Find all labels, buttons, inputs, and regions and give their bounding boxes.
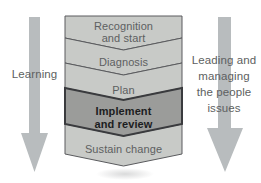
leading-managing-arrow-label: Leading and managing the people issues bbox=[187, 52, 261, 116]
chevron-tip-shadow bbox=[96, 168, 154, 180]
leading-label-line: Leading and bbox=[187, 52, 261, 68]
change-process-diagram: Recognition and start Diagnosis Plan Imp… bbox=[0, 0, 261, 183]
step-label-line: and start bbox=[65, 32, 182, 44]
step-label-implement-and-review: Implement and review bbox=[65, 105, 182, 131]
step-label-line: Recognition bbox=[65, 20, 182, 32]
step-label-recognition-and-start: Recognition and start bbox=[65, 20, 182, 44]
leading-label-line: issues bbox=[187, 100, 261, 116]
step-label-line: Implement bbox=[65, 105, 182, 118]
step-label-line: Sustain change bbox=[65, 143, 182, 155]
step-label-diagnosis: Diagnosis bbox=[65, 56, 182, 68]
learning-label-text: Learning bbox=[12, 68, 58, 80]
step-label-sustain-change: Sustain change bbox=[65, 143, 182, 155]
leading-label-line: managing bbox=[187, 68, 261, 84]
step-label-line: Diagnosis bbox=[65, 56, 182, 68]
learning-arrow-label: Learning bbox=[0, 68, 69, 80]
step-label-line: and review bbox=[65, 118, 182, 131]
step-label-plan: Plan bbox=[65, 84, 182, 96]
step-label-line: Plan bbox=[65, 84, 182, 96]
learning-arrow bbox=[21, 17, 48, 172]
leading-label-line: the people bbox=[187, 84, 261, 100]
